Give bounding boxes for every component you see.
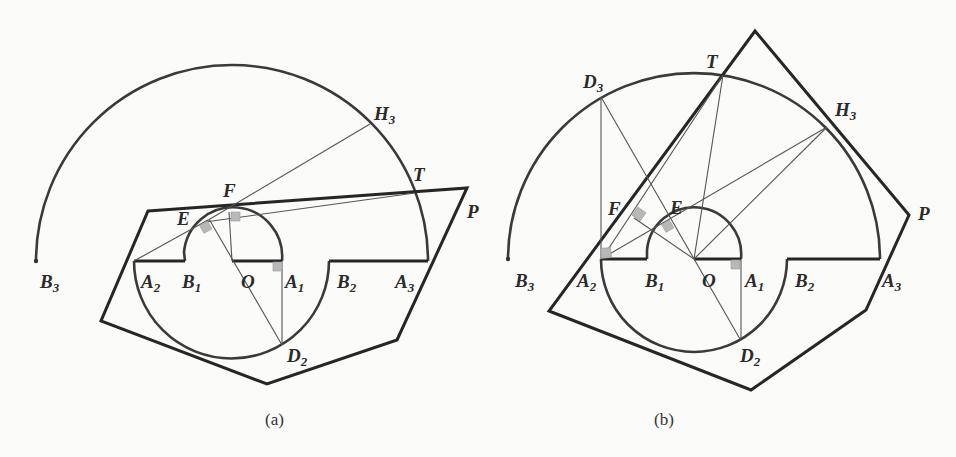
- right-angle-marker: [662, 220, 674, 232]
- label-d2: D2: [286, 345, 308, 369]
- line-t-o: [694, 75, 723, 259]
- right-angle-marker: [200, 221, 212, 233]
- label-b2: B2: [336, 271, 357, 295]
- label-a1: A1: [744, 270, 764, 294]
- label-t: T: [706, 51, 719, 72]
- point-b3: [34, 259, 38, 263]
- line-f-h3: [205, 124, 370, 222]
- panel-a: B3 A2 B1 O A1 B2 A3 E F H3 T P D2 (a): [34, 65, 479, 429]
- label-p: P: [917, 203, 930, 224]
- right-angle-marker: [731, 260, 740, 269]
- label-a2: A2: [576, 270, 597, 294]
- line-a2-t: [603, 75, 723, 257]
- label-f: F: [222, 180, 236, 201]
- outer-arc-b: [508, 73, 880, 259]
- label-t: T: [413, 164, 426, 185]
- label-d2: D2: [739, 345, 761, 369]
- right-angle-marker: [601, 248, 612, 259]
- figure-canvas: B3 A2 B1 O A1 B2 A3 E F H3 T P D2 (a): [0, 0, 956, 457]
- label-o: O: [241, 271, 255, 292]
- right-angle-marker: [231, 212, 240, 221]
- label-h3: H3: [373, 103, 396, 127]
- point-b3: [506, 257, 510, 261]
- label-d3: D3: [582, 71, 604, 95]
- label-a3: A3: [394, 271, 415, 295]
- right-angle-marker: [273, 262, 282, 271]
- label-o: O: [702, 270, 716, 291]
- label-a2: A2: [140, 271, 161, 295]
- outer-arc-a: [36, 65, 428, 261]
- line-a2-e: [134, 220, 208, 261]
- caption-b: (b): [654, 410, 674, 429]
- label-b1: B1: [644, 270, 664, 294]
- panel-b: B3 A2 B1 O A1 B2 A3 D3 T H3 P F E D2 (b): [506, 31, 930, 429]
- label-e: E: [176, 208, 190, 229]
- label-h3: H3: [834, 99, 857, 123]
- label-b3: B3: [514, 270, 535, 294]
- caption-a: (a): [265, 410, 284, 429]
- label-b2: B2: [794, 270, 815, 294]
- label-b3: B3: [39, 271, 60, 295]
- lower-arc-b: [601, 259, 787, 352]
- label-e: E: [669, 197, 683, 218]
- inner-semicircle-b: [647, 207, 741, 259]
- label-p: P: [466, 201, 479, 222]
- label-f: F: [607, 198, 621, 219]
- label-a3: A3: [881, 270, 902, 294]
- label-a1: A1: [284, 271, 304, 295]
- label-b1: B1: [181, 271, 201, 295]
